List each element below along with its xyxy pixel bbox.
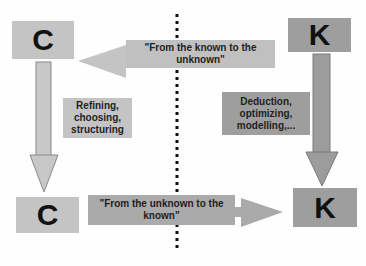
arrow-left-head [78, 45, 128, 78]
edge-label-unknown-to-known: "From the unknown to the known" [88, 195, 235, 225]
edge-label-deduction: Deduction, optimizing, modelling,... [222, 92, 310, 135]
node-k-top-label: K [309, 18, 331, 52]
node-c-top-label: C [32, 23, 54, 57]
node-c-bottom: C [16, 197, 79, 233]
node-k-bottom-label: K [314, 191, 336, 225]
node-c-top: C [12, 21, 74, 59]
edge-label-refining-text: Refining, choosing, structuring [66, 100, 129, 136]
edge-label-deduction-text: Deduction, optimizing, modelling,... [231, 96, 301, 132]
edge-label-refining: Refining, choosing, structuring [63, 98, 132, 138]
node-k-top: K [288, 18, 351, 52]
arrow-down-c [30, 62, 58, 192]
node-c-bottom-label: C [37, 198, 59, 232]
edge-label-unknown-to-known-text: "From the unknown to the known" [91, 198, 232, 222]
node-k-bottom: K [293, 188, 357, 227]
edge-label-known-to-unknown-text: "From the known to the unknown" [129, 42, 272, 66]
edge-label-known-to-unknown: "From the known to the unknown" [126, 40, 275, 68]
arrow-down-k [306, 54, 338, 186]
arrow-right-head [233, 198, 283, 227]
